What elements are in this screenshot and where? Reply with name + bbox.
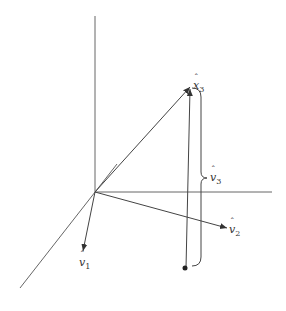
- label-x3-sub: 3: [199, 85, 204, 94]
- label-v2: v2: [229, 224, 240, 238]
- label-v3-var: v: [210, 172, 216, 183]
- vector-v1: [83, 192, 95, 251]
- v3-brace: [192, 88, 207, 266]
- diagram-canvas: x3 v3 v2 v1: [0, 0, 286, 311]
- label-x3-var: x: [193, 80, 199, 91]
- label-v2-var: v: [229, 224, 235, 235]
- depth-axis: [20, 164, 117, 288]
- diagram-svg: [0, 0, 286, 311]
- label-v3: v3: [210, 172, 221, 186]
- projection-vector: [186, 89, 190, 268]
- vector-v2: [95, 192, 227, 228]
- label-v1-sub: 1: [85, 262, 90, 271]
- label-v3-sub: 3: [216, 177, 221, 186]
- label-x3: x3: [193, 80, 204, 94]
- label-v2-sub: 2: [235, 229, 240, 238]
- label-v1: v1: [79, 257, 90, 271]
- base-point: [183, 266, 188, 271]
- label-v1-var: v: [79, 257, 85, 268]
- vector-x3: [95, 87, 190, 192]
